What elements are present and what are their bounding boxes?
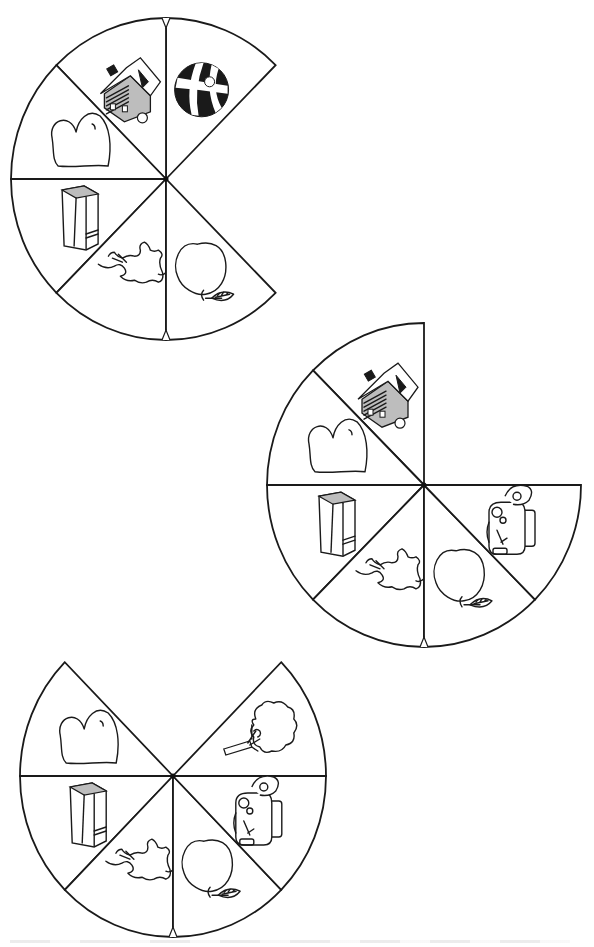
- spinner-sheet: [0, 0, 594, 947]
- sector-apple: [166, 179, 276, 340]
- wheels-layer: [11, 18, 581, 937]
- beach-ball-icon: [175, 63, 229, 117]
- book-icon: [70, 783, 106, 847]
- wheel-3: [20, 662, 326, 937]
- center-hub: [164, 177, 169, 182]
- sector-heart: [20, 662, 173, 776]
- sector-ball: [166, 18, 276, 179]
- center-hub: [171, 774, 176, 779]
- sector-outline: [166, 179, 276, 340]
- sector-outline: [173, 662, 326, 776]
- sector-tree: [173, 662, 326, 776]
- bleed-through-text: [10, 940, 570, 943]
- sector-outline: [20, 662, 173, 776]
- center-hub: [422, 483, 427, 488]
- book-icon: [319, 492, 355, 556]
- wheel-2: [267, 323, 581, 647]
- book-icon: [62, 186, 98, 250]
- wheel-1: [11, 18, 276, 340]
